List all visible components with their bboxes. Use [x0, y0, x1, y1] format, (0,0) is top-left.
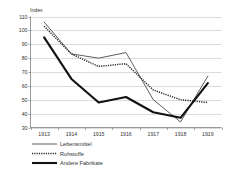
x-tick-label: 1915 — [93, 131, 105, 137]
chart-canvas: Index 11010090807060504030 1913191419151… — [0, 0, 232, 173]
y-tick-label: 90 — [22, 41, 28, 47]
series-line-lebensmittel — [44, 22, 208, 122]
line-chart-figure: Index 11010090807060504030 1913191419151… — [0, 0, 232, 173]
x-tick-label: 1916 — [120, 131, 132, 137]
x-tick-label: 1919 — [202, 131, 214, 137]
y-tick-label: 70 — [22, 69, 28, 75]
x-tick-labels-group: 1913191419151916191719181919 — [38, 131, 213, 137]
y-tick-label: 50 — [22, 97, 28, 103]
series-line-rohstoffe — [44, 26, 208, 102]
x-tick-label: 1917 — [148, 131, 160, 137]
x-tick-label: 1913 — [38, 131, 50, 137]
y-tick-label: 40 — [22, 111, 28, 117]
x-tick-label: 1914 — [66, 131, 78, 137]
legend: Lebensmittel Rohstoffe Andere Fabrikate — [32, 141, 103, 166]
legend-label-andere-fabrikate: Andere Fabrikate — [60, 160, 103, 166]
legend-label-lebensmittel: Lebensmittel — [60, 141, 92, 147]
gridlines-group — [31, 18, 222, 129]
y-tick-label: 60 — [22, 83, 28, 89]
legend-label-rohstoffe: Rohstoffe — [60, 151, 84, 157]
y-tick-label: 100 — [19, 27, 28, 33]
y-tick-labels-group: 11010090807060504030 — [19, 14, 31, 131]
y-tick-label: 80 — [22, 55, 28, 61]
x-tick-label: 1918 — [175, 131, 187, 137]
y-tick-label: 30 — [22, 125, 28, 131]
series-line-andere-fabrikate — [44, 37, 208, 117]
y-tick-label: 110 — [19, 14, 27, 20]
y-axis-title: Index — [30, 7, 43, 13]
